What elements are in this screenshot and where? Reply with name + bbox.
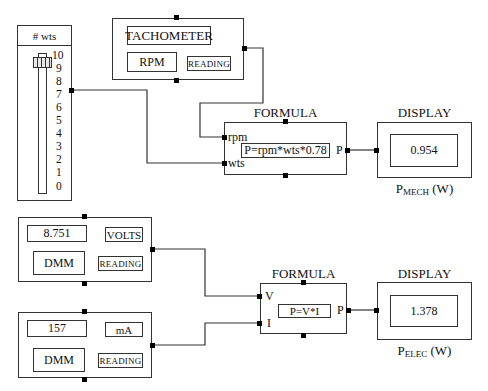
display-mech-panel: 0.954: [377, 122, 472, 178]
display-elec-label: DISPLAY: [377, 266, 472, 282]
caption-mech-sub: MECH: [403, 187, 429, 197]
tick-9: 9: [56, 62, 62, 74]
caption-mech-main: P: [396, 181, 403, 196]
caption-elec-unit: (W): [431, 343, 452, 358]
tachometer-bottom-pin[interactable]: [174, 78, 179, 83]
slider-handle[interactable]: [33, 57, 52, 68]
tick-3: 3: [56, 140, 62, 152]
formula-mech-top-pin[interactable]: [283, 119, 288, 124]
formula-mech-bottom-pin[interactable]: [283, 173, 288, 178]
tick-10: 10: [52, 49, 64, 61]
display-elec-input-pin[interactable]: [374, 308, 379, 313]
formula-elec-expression[interactable]: P=V*I: [278, 304, 331, 318]
wire-slider-to-wts: [73, 90, 224, 163]
formula-elec-output-pin[interactable]: [346, 308, 351, 313]
wire-volts-to-v: [153, 249, 259, 296]
formula-elec-input-v: V: [265, 289, 274, 304]
display-mech-caption: PMECH (W): [377, 181, 472, 197]
formula-elec-bottom-pin[interactable]: [301, 333, 306, 338]
caption-elec-sub: ELEC: [405, 349, 428, 359]
formula-mech-block: rpm wts P=rpm*wts*0.78 P: [224, 122, 347, 175]
slider-title: # wts: [18, 26, 71, 46]
formula-elec-top-pin[interactable]: [301, 280, 306, 285]
display-elec-panel: 1.378: [377, 282, 472, 340]
dmm-volts-panel: 8.751 VOLTS DMM READING: [18, 217, 152, 282]
dmm-volts-bottom-pin[interactable]: [82, 281, 87, 286]
formula-elec-i-pin[interactable]: [257, 321, 262, 326]
tick-1: 1: [56, 166, 62, 178]
formula-mech-wts-pin[interactable]: [222, 161, 227, 166]
dmm-current-reading-button[interactable]: READING: [98, 353, 143, 368]
display-elec-value: 1.378: [390, 295, 458, 327]
display-mech-value: 0.954: [390, 134, 458, 167]
tachometer-panel: TACHOMETER RPM READING: [112, 18, 244, 80]
tick-8: 8: [56, 75, 62, 87]
formula-mech-output-label: P: [336, 143, 343, 158]
tick-4: 4: [56, 127, 62, 139]
tachometer-reading-button[interactable]: READING: [187, 56, 231, 71]
tick-6: 6: [56, 101, 62, 113]
tick-5: 5: [56, 114, 62, 126]
caption-elec-main: P: [398, 343, 405, 358]
dmm-current-bottom-pin[interactable]: [82, 377, 87, 382]
dmm-volts-output-pin[interactable]: [150, 247, 155, 252]
formula-mech-rpm-pin[interactable]: [222, 135, 227, 140]
formula-mech-expression[interactable]: P=rpm*wts*0.78: [241, 143, 330, 158]
display-mech-input-pin[interactable]: [374, 148, 379, 153]
slider-track[interactable]: [38, 53, 47, 194]
dmm-volts-value: 8.751: [27, 225, 87, 242]
dmm-volts-unit: VOLTS: [105, 227, 143, 242]
tachometer-title: TACHOMETER: [127, 26, 211, 45]
dmm-current-name: DMM: [33, 348, 85, 372]
formula-mech-output-pin[interactable]: [345, 148, 350, 153]
tachometer-unit: RPM: [127, 52, 177, 72]
dmm-current-output-pin[interactable]: [150, 343, 155, 348]
caption-mech-unit: (W): [432, 181, 453, 196]
wire-current-to-i: [153, 323, 259, 345]
dmm-current-top-pin[interactable]: [82, 309, 87, 314]
dmm-current-value: 157: [27, 320, 87, 337]
formula-mech-input-wts: wts: [228, 156, 245, 171]
dmm-current-unit: mA: [105, 322, 143, 337]
display-mech-label: DISPLAY: [377, 105, 472, 121]
slider-output-pin[interactable]: [69, 88, 74, 93]
display-elec-caption: PELEC (W): [377, 343, 472, 359]
dmm-current-panel: 157 mA DMM READING: [18, 312, 152, 378]
dmm-volts-name: DMM: [33, 251, 85, 275]
tachometer-output-pin[interactable]: [242, 46, 247, 51]
dmm-volts-top-pin[interactable]: [82, 214, 87, 219]
tick-0: 0: [56, 180, 62, 192]
tick-2: 2: [56, 153, 62, 165]
formula-elec-v-pin[interactable]: [257, 294, 262, 299]
formula-elec-block: V I P=V*I P: [260, 283, 347, 334]
dmm-volts-reading-button[interactable]: READING: [98, 256, 143, 271]
formula-elec-input-i: I: [267, 316, 271, 331]
formula-elec-output-label: P: [337, 303, 344, 318]
tick-7: 7: [56, 88, 62, 100]
tachometer-top-pin[interactable]: [174, 15, 179, 20]
